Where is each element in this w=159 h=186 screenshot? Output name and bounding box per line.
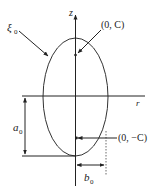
focus-bottom-point [75, 137, 78, 140]
spheroid-diagram: z r ξ 0 (0, C) (0, −C) a 0 b 0 [0, 0, 159, 186]
focus-top-label: (0, C) [101, 19, 124, 31]
focus-top-point [74, 54, 77, 57]
a0-subscript: 0 [19, 128, 23, 136]
xi0-subscript: 0 [14, 28, 18, 36]
r-axis-label: r [136, 98, 140, 108]
focus-top-pointer-arrow [78, 30, 101, 53]
b0-subscript: 0 [90, 178, 94, 186]
focus-bottom-label: (0, −C) [118, 132, 147, 144]
z-axis-label: z [68, 7, 73, 18]
xi0-label: ξ [7, 21, 12, 34]
xi0-pointer-arrow [19, 31, 48, 56]
